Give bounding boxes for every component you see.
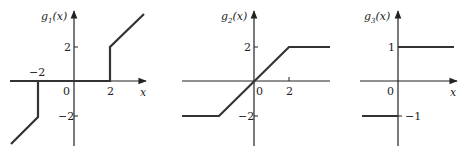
x-axis-label: x bbox=[140, 86, 147, 99]
g1-right-branch bbox=[38, 14, 144, 81]
y-axis-label: g2(x) bbox=[221, 10, 247, 25]
y-tick-label-2: 2 bbox=[64, 41, 71, 54]
g1-left-branch bbox=[10, 81, 38, 144]
origin-label: 0 bbox=[387, 85, 394, 98]
graph-g3: g3(x) 0 x 1 −1 bbox=[360, 10, 457, 146]
origin-label: 0 bbox=[63, 85, 70, 98]
graph-g1: g1(x) −2 0 2 x 2 −2 bbox=[10, 10, 147, 146]
y-tick-label-neg2: −2 bbox=[58, 110, 74, 123]
figure-nonlinearities: g1(x) −2 0 2 x 2 −2 g2(x) 0 2 2 −2 g3(x)… bbox=[0, 0, 461, 150]
origin-label: 0 bbox=[256, 85, 263, 98]
y-tick-label-2: 2 bbox=[244, 41, 251, 54]
y-axis-label: g3(x) bbox=[364, 10, 390, 25]
y-tick-label-neg1: −1 bbox=[405, 110, 421, 123]
graph-g2: g2(x) 0 2 2 −2 bbox=[182, 10, 330, 146]
x-tick-label-neg2: −2 bbox=[29, 66, 45, 79]
x-axis-label: x bbox=[450, 86, 457, 99]
y-tick-label-1: 1 bbox=[388, 41, 395, 54]
y-tick-label-neg2: −2 bbox=[238, 110, 254, 123]
x-tick-label-2: 2 bbox=[107, 85, 114, 98]
y-axis-label: g1(x) bbox=[41, 10, 67, 25]
x-tick-label-2: 2 bbox=[286, 85, 293, 98]
